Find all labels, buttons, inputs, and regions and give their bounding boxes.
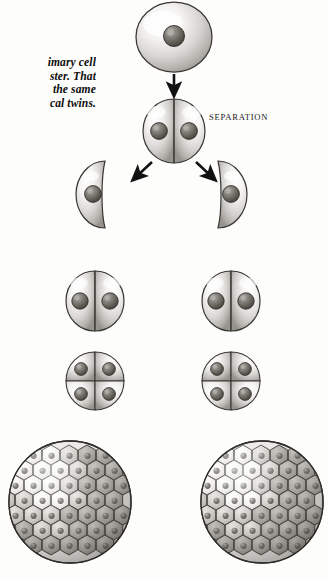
nucleus [72,293,88,309]
nucleus [238,293,254,309]
nucleus [181,123,198,140]
nucleus [102,293,118,309]
stage-separated-half-left [76,161,105,228]
stage-two-cell-center [143,99,205,163]
nucleus [211,363,224,376]
stage-four-cell-right [202,352,260,410]
stage-separated-half-right [218,161,247,228]
nucleus [223,186,240,203]
nucleus [85,186,102,203]
stage-morula-right [180,441,323,563]
nucleus [75,363,88,376]
arrow-split-left [137,162,152,176]
nucleus [239,388,252,401]
nucleus [208,293,224,309]
arrow-split-right [196,162,211,176]
twin-formation-diagram [0,0,328,578]
nucleus [151,123,168,140]
nucleus [103,388,116,401]
nucleus [103,363,116,376]
stage-two-cell-right [202,271,260,331]
stage-morula-left [0,441,132,563]
nucleus [75,388,88,401]
stage-four-cell-left [66,352,124,410]
stage-zygote [136,2,212,72]
nucleus [164,26,185,47]
nucleus [239,363,252,376]
stage-two-cell-left [66,271,124,331]
nucleus [211,388,224,401]
